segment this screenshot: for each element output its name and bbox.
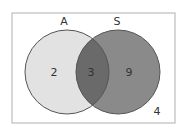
set-s-only-count: 9	[126, 66, 133, 79]
set-a-label: A	[60, 15, 68, 28]
outside-count: 4	[154, 105, 161, 118]
set-a-only-count: 2	[51, 66, 58, 79]
venn-diagram: A S 2 3 9 4	[0, 0, 182, 128]
set-s-label: S	[114, 15, 121, 28]
intersection-count: 3	[88, 66, 95, 79]
